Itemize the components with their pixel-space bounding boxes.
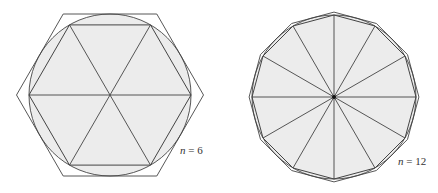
label-n-12: n = 12 <box>398 155 426 167</box>
hexagon-figure <box>17 14 204 176</box>
diagram-canvas <box>0 0 438 193</box>
dodecagon-figure <box>249 12 419 182</box>
label-value: 6 <box>197 144 203 156</box>
label-n-6: n = 6 <box>180 144 203 156</box>
label-equals: = <box>404 155 416 167</box>
center-dot <box>332 95 336 99</box>
label-value: 12 <box>415 155 426 167</box>
label-equals: = <box>186 144 198 156</box>
